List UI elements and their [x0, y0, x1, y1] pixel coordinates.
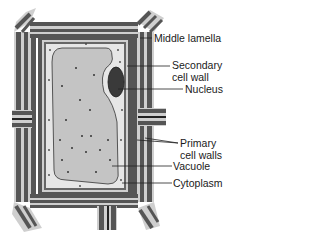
label-cytoplasm: Cytoplasm	[173, 177, 223, 189]
label-line: cell wall	[172, 71, 222, 83]
label-line: Secondary	[172, 59, 222, 71]
label-primary-cell-walls: Primary cell walls	[180, 137, 222, 161]
label-nucleus: Nucleus	[185, 83, 223, 95]
label-line: Primary	[180, 137, 222, 149]
nucleus	[108, 67, 124, 97]
label-secondary-cell-wall: Secondary cell wall	[172, 59, 222, 83]
label-middle-lamella: Middle lamella	[154, 32, 221, 44]
label-vacuole: Vacuole	[173, 160, 210, 172]
